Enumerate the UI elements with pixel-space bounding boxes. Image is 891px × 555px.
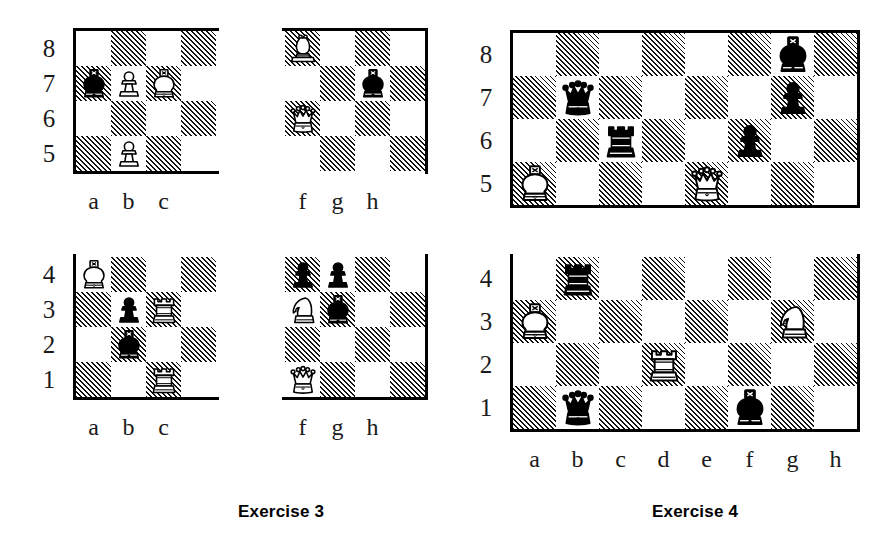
board-square	[111, 292, 146, 327]
board-square	[599, 343, 642, 386]
board-square	[355, 257, 390, 292]
board-square	[320, 101, 355, 136]
board-square	[685, 300, 728, 343]
board-square	[728, 162, 771, 205]
rank-label: 4	[473, 266, 499, 291]
board-square	[685, 257, 728, 300]
board-square	[814, 300, 857, 343]
board-square	[556, 386, 599, 429]
board-square	[285, 31, 320, 66]
exercise-caption: Exercise 4	[652, 502, 738, 522]
board-square	[556, 76, 599, 119]
board-square	[285, 362, 320, 397]
file-label: a	[522, 447, 548, 471]
file-label: h	[823, 447, 849, 471]
file-label: f	[737, 447, 763, 471]
board-square	[181, 292, 216, 327]
board-square	[146, 292, 181, 327]
file-label: h	[360, 415, 386, 439]
board-square	[685, 33, 728, 76]
board-square	[285, 136, 320, 171]
board-edge-right	[857, 30, 860, 208]
board-square	[285, 257, 320, 292]
board-edge-top	[510, 30, 860, 33]
board-edge-right	[425, 254, 428, 400]
board-square	[76, 101, 111, 136]
board-square	[76, 136, 111, 171]
board-square	[181, 101, 216, 136]
board-square	[814, 343, 857, 386]
board-square	[771, 386, 814, 429]
file-label: f	[290, 415, 316, 439]
chess-board-fragment	[76, 257, 216, 397]
board-square	[111, 136, 146, 171]
board-edge-bottom	[73, 397, 219, 400]
board-square	[599, 33, 642, 76]
board-square	[146, 31, 181, 66]
file-label: e	[694, 447, 720, 471]
board-square	[355, 101, 390, 136]
file-label: g	[325, 415, 351, 439]
board-square	[556, 257, 599, 300]
board-square	[599, 162, 642, 205]
board-square	[728, 119, 771, 162]
board-edge-left	[73, 28, 76, 174]
board-square	[146, 327, 181, 362]
board-square	[728, 386, 771, 429]
board-square	[320, 292, 355, 327]
board-square	[642, 300, 685, 343]
file-label: a	[81, 189, 107, 213]
board-square	[513, 300, 556, 343]
board-square	[513, 162, 556, 205]
file-label: h	[360, 189, 386, 213]
rank-label: 2	[473, 352, 499, 377]
file-label: g	[325, 189, 351, 213]
board-square	[181, 31, 216, 66]
board-square	[685, 76, 728, 119]
board-square	[642, 119, 685, 162]
board-square	[285, 101, 320, 136]
file-label: a	[81, 415, 107, 439]
board-square	[181, 327, 216, 362]
board-square	[355, 362, 390, 397]
board-square	[320, 136, 355, 171]
board-square	[599, 119, 642, 162]
board-square	[771, 343, 814, 386]
board-square	[355, 66, 390, 101]
board-square	[685, 162, 728, 205]
file-label: d	[651, 447, 677, 471]
file-label: c	[608, 447, 634, 471]
board-square	[642, 257, 685, 300]
board-square	[599, 386, 642, 429]
board-square	[513, 343, 556, 386]
board-edge-bottom	[510, 205, 860, 208]
board-square	[814, 162, 857, 205]
board-square	[685, 386, 728, 429]
board-square	[556, 162, 599, 205]
board-square	[513, 119, 556, 162]
board-square	[390, 31, 425, 66]
board-square	[771, 257, 814, 300]
file-label: f	[290, 189, 316, 213]
board-square	[355, 31, 390, 66]
board-square	[728, 343, 771, 386]
board-square	[556, 343, 599, 386]
board-edge-top	[73, 28, 219, 31]
board-square	[390, 292, 425, 327]
board-square	[513, 386, 556, 429]
board-square	[599, 300, 642, 343]
chess-board-fragment	[513, 33, 857, 205]
file-label: b	[116, 415, 142, 439]
rank-label: 2	[36, 332, 62, 357]
board-square	[355, 292, 390, 327]
board-square	[814, 386, 857, 429]
rank-label: 3	[36, 297, 62, 322]
board-square	[390, 327, 425, 362]
board-square	[76, 362, 111, 397]
board-square	[320, 257, 355, 292]
board-square	[285, 292, 320, 327]
board-edge-right	[425, 28, 428, 174]
board-square	[513, 257, 556, 300]
board-edge-top	[282, 28, 428, 31]
board-square	[320, 327, 355, 362]
